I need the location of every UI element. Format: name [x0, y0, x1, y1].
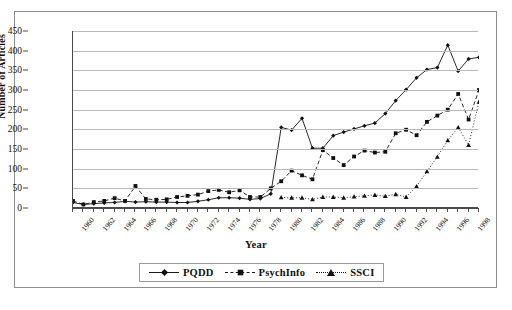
x-axis-tick: [187, 208, 188, 212]
triangle-marker-icon: [316, 268, 346, 278]
x-axis-tick: [218, 208, 219, 212]
x-axis-tick: [72, 208, 73, 212]
x-axis-title: Year: [0, 239, 512, 250]
chart-figure: Number of Articles 050100150200250300350…: [0, 0, 512, 310]
x-axis-tick: [363, 208, 364, 212]
x-axis-tick: [166, 208, 167, 212]
y-axis-tick: [23, 149, 28, 150]
x-axis-tick-label: 1988: [371, 216, 387, 234]
y-axis-tick: [23, 70, 28, 71]
x-axis-tick-label: 1976: [246, 216, 262, 234]
x-axis-tick-label: 1964: [121, 216, 137, 234]
x-axis-tick: [228, 208, 229, 212]
legend-item-psychinfo: PsychInfo: [225, 267, 306, 278]
square-marker-icon: [225, 268, 255, 278]
y-axis-title: Number of Articles: [0, 34, 7, 119]
y-axis-tick-label: 200: [8, 124, 22, 134]
gridline: [73, 188, 478, 189]
y-axis-tick-label: 450: [8, 26, 22, 36]
x-axis-tick: [176, 208, 177, 212]
x-axis-tick: [447, 208, 448, 212]
legend-item-pqdd: PQDD: [149, 267, 214, 278]
x-axis-tick-label: 1974: [225, 216, 241, 234]
x-axis-tick: [155, 208, 156, 212]
x-axis-tick: [468, 208, 469, 212]
x-axis-tick: [478, 208, 479, 212]
x-axis-tick: [249, 208, 250, 212]
gridline: [73, 90, 478, 91]
x-axis-tick: [426, 208, 427, 212]
x-axis-tick: [114, 208, 115, 212]
y-axis-tick: [23, 109, 28, 110]
legend-label: PQDD: [183, 267, 214, 278]
y-axis-tick: [23, 168, 28, 169]
y-axis-tick: [23, 90, 28, 91]
x-axis-tick-label: 1984: [329, 216, 345, 234]
y-axis-tick: [23, 188, 28, 189]
plot-area: [72, 31, 478, 208]
x-axis-tick: [259, 208, 260, 212]
x-axis-tick: [395, 208, 396, 212]
x-axis-tick-label: 1980: [288, 216, 304, 234]
x-axis-tick: [384, 208, 385, 212]
chart-legend: PQDD PsychInfo SSCI: [139, 263, 384, 282]
x-axis-tick: [405, 208, 406, 212]
x-axis-tick-label: 1972: [205, 216, 221, 234]
x-axis-tick-label: 1986: [350, 216, 366, 234]
x-axis-tick-label: 1982: [309, 216, 325, 234]
x-axis-tick-label: 1968: [163, 216, 179, 234]
x-axis-tick-label: 1978: [267, 216, 283, 234]
legend-item-ssci: SSCI: [316, 267, 374, 278]
x-axis-tick-label: 1966: [142, 216, 158, 234]
x-axis-tick: [124, 208, 125, 212]
x-axis-tick: [416, 208, 417, 212]
x-axis-tick: [374, 208, 375, 212]
x-axis-tick: [82, 208, 83, 212]
y-axis-tick-label: 350: [8, 65, 22, 75]
x-axis-tick: [343, 208, 344, 212]
x-axis-tick: [291, 208, 292, 212]
diamond-marker-icon: [149, 268, 179, 278]
x-axis-tick-label: 1996: [454, 216, 470, 234]
x-axis-tick: [207, 208, 208, 212]
y-axis-tick-label: 300: [8, 85, 22, 95]
y-axis-tick: [23, 129, 28, 130]
gridline: [73, 51, 478, 52]
x-axis-tick: [322, 208, 323, 212]
x-axis-tick: [301, 208, 302, 212]
x-axis-tick: [103, 208, 104, 212]
x-axis-tick: [270, 208, 271, 212]
x-axis-tick: [145, 208, 146, 212]
x-axis-tick: [353, 208, 354, 212]
x-axis-tick: [311, 208, 312, 212]
gridline: [73, 110, 478, 111]
gridlines: [73, 31, 478, 207]
x-axis-tick-label: 1962: [100, 216, 116, 234]
y-axis: Number of Articles 050100150200250300350…: [0, 0, 72, 208]
y-axis-tick: [23, 208, 28, 209]
y-axis-tick-label: 50: [13, 183, 23, 193]
x-axis-tick-label: 1992: [413, 216, 429, 234]
x-axis-tick: [134, 208, 135, 212]
y-axis-tick-label: 0: [17, 203, 22, 213]
legend-label: SSCI: [350, 267, 374, 278]
y-axis-tick-label: 100: [8, 164, 22, 174]
gridline: [73, 70, 478, 71]
x-axis-tick-label: 1994: [434, 216, 450, 234]
gridline: [73, 149, 478, 150]
y-axis-tick-label: 400: [8, 46, 22, 56]
gridline: [73, 129, 478, 130]
x-axis-tick-label: 1970: [184, 216, 200, 234]
gridline: [73, 31, 478, 32]
y-axis-tick: [23, 50, 28, 51]
x-axis-tick: [332, 208, 333, 212]
x-axis-tick: [457, 208, 458, 212]
gridline: [73, 169, 478, 170]
legend-label: PsychInfo: [259, 267, 306, 278]
x-axis-tick: [197, 208, 198, 212]
y-axis-tick: [23, 31, 28, 32]
x-axis-tick: [280, 208, 281, 212]
x-axis-tick: [239, 208, 240, 212]
x-axis-tick: [93, 208, 94, 212]
x-axis-tick-label: 1990: [392, 216, 408, 234]
